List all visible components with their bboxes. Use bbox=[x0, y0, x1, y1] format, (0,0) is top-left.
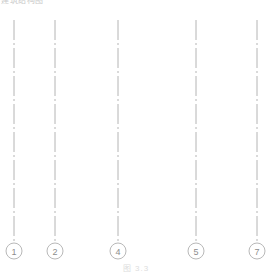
grid-line-group bbox=[14, 20, 257, 242]
grid-bubble-group: 12457 bbox=[6, 243, 265, 259]
grid-bubble-label-7: 7 bbox=[254, 247, 259, 257]
grid-bubble-label-2: 2 bbox=[52, 247, 57, 257]
grid-bubble-5[interactable]: 5 bbox=[188, 243, 204, 259]
architectural-grid-drawing: 建筑结构图 12457 图 3.3 bbox=[0, 0, 272, 276]
grid-bubble-label-1: 1 bbox=[11, 247, 16, 257]
grid-bubble-7[interactable]: 7 bbox=[249, 243, 265, 259]
grid-bubble-2[interactable]: 2 bbox=[47, 243, 63, 259]
grid-bubble-label-4: 4 bbox=[115, 247, 120, 257]
figure-caption: 图 3.3 bbox=[0, 262, 272, 273]
grid-axis-canvas: 12457 bbox=[0, 0, 272, 276]
grid-bubble-4[interactable]: 4 bbox=[110, 243, 126, 259]
grid-bubble-label-5: 5 bbox=[193, 247, 198, 257]
grid-bubble-1[interactable]: 1 bbox=[6, 243, 22, 259]
